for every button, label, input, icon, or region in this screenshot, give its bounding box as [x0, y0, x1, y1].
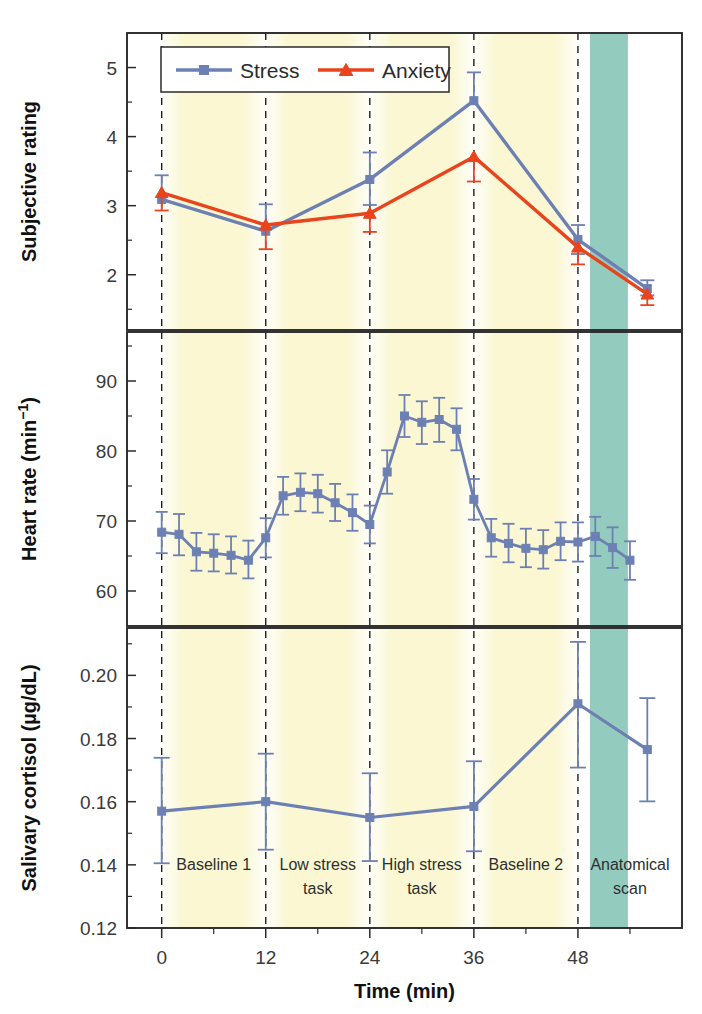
data-marker-square	[158, 807, 166, 815]
phase-band-yellow	[474, 33, 578, 928]
data-marker-square	[574, 700, 582, 708]
data-marker-square	[522, 544, 530, 552]
y-tick-label: 60	[96, 581, 117, 602]
multi-panel-physiology-chart: 2345Subjective ratingStressAnxiety607080…	[0, 0, 702, 1014]
legend: StressAnxiety	[161, 47, 451, 92]
y-tick-label: 0.12	[80, 918, 117, 939]
data-marker-square	[470, 802, 478, 810]
phase-label-line2: scan	[613, 880, 647, 897]
data-marker-square	[591, 532, 599, 540]
y-tick-label: 4	[106, 127, 117, 148]
y-tick-label: 5	[106, 58, 117, 79]
data-marker-square	[470, 495, 478, 503]
phase-band-yellow	[162, 33, 266, 928]
data-marker-square	[383, 468, 391, 476]
data-marker-square	[158, 528, 166, 536]
y-tick-label: 70	[96, 511, 117, 532]
data-marker-square	[200, 66, 209, 75]
x-axis: 012243648Time (min)	[156, 928, 630, 1002]
data-marker-square	[279, 492, 287, 500]
y-tick-label: 80	[96, 441, 117, 462]
data-marker-square	[505, 539, 513, 547]
phase-label-line2: task	[407, 880, 437, 897]
data-marker-square	[453, 425, 461, 433]
figure-root: 2345Subjective ratingStressAnxiety607080…	[0, 0, 702, 1014]
y-axis-title-heart-rate: Heart rate (min−1)	[15, 397, 40, 561]
phase-label: Baseline 2	[489, 856, 564, 873]
x-tick-label: 12	[255, 947, 276, 968]
data-marker-square	[244, 556, 252, 564]
legend-label-anxiety: Anxiety	[382, 59, 451, 82]
data-marker-square	[175, 530, 183, 538]
data-marker-square	[643, 746, 651, 754]
phase-bands	[162, 33, 628, 928]
data-marker-square	[331, 499, 339, 507]
data-marker-square	[262, 798, 270, 806]
y-axis-title-salivary-cortisol: Salivary cortisol (µg/dL)	[18, 664, 40, 891]
data-marker-square	[366, 175, 374, 183]
y-axis-title-subjective-rating: Subjective rating	[18, 101, 40, 262]
y-axis-middle: 60708090	[96, 346, 136, 602]
data-marker-square	[539, 546, 547, 554]
data-marker-square	[609, 544, 617, 552]
y-tick-label: 2	[106, 265, 117, 286]
data-marker-square	[366, 813, 374, 821]
phase-label: High stress	[382, 856, 462, 873]
data-marker-square	[574, 538, 582, 546]
data-marker-square	[210, 549, 218, 557]
phase-label: Anatomical	[590, 856, 669, 873]
phase-band-teal	[590, 33, 628, 928]
x-tick-label: 24	[359, 947, 381, 968]
data-marker-square	[418, 418, 426, 426]
data-marker-square	[487, 534, 495, 542]
data-marker-square	[626, 556, 634, 564]
y-tick-label: 3	[106, 196, 117, 217]
y-axis-top: 2345	[106, 58, 136, 310]
y-tick-label: 0.14	[80, 855, 117, 876]
data-marker-square	[192, 548, 200, 556]
x-tick-label: 36	[463, 947, 484, 968]
data-marker-square	[296, 488, 304, 496]
phase-label-line2: task	[303, 880, 333, 897]
data-marker-square	[557, 537, 565, 545]
legend-label-stress: Stress	[240, 59, 300, 82]
data-marker-square	[314, 490, 322, 498]
data-marker-square	[470, 97, 478, 105]
y-tick-label: 90	[96, 371, 117, 392]
y-tick-label: 0.16	[80, 792, 117, 813]
data-marker-square	[348, 509, 356, 517]
x-axis-title: Time (min)	[354, 980, 455, 1002]
phase-label: Low stress	[280, 856, 356, 873]
x-tick-label: 48	[567, 947, 588, 968]
data-marker-square	[366, 521, 374, 529]
data-marker-square	[227, 551, 235, 559]
y-tick-label: 0.18	[80, 729, 117, 750]
phase-label: Baseline 1	[176, 856, 251, 873]
y-tick-label: 0.20	[80, 665, 117, 686]
x-tick-label: 0	[156, 947, 167, 968]
data-marker-square	[262, 534, 270, 542]
data-marker-square	[435, 416, 443, 424]
data-marker-square	[401, 412, 409, 420]
